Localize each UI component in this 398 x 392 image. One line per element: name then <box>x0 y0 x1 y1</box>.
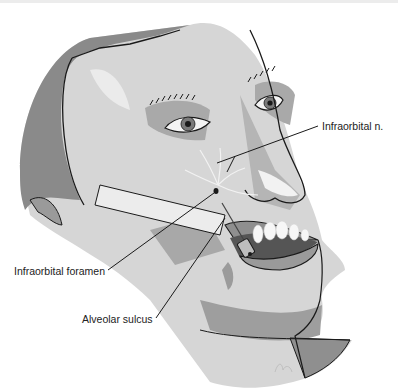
label-infraorbital-foramen: Infraorbital foramen <box>14 265 105 277</box>
illustration: Infraorbital n. Infraorbital foramen Alv… <box>0 0 398 392</box>
infraorbital-foramen-mark <box>214 188 219 194</box>
face-illustration <box>0 0 398 392</box>
label-infraorbital-n: Infraorbital n. <box>322 120 383 132</box>
label-alveolar-sulcus: Alveolar sulcus <box>82 313 153 325</box>
